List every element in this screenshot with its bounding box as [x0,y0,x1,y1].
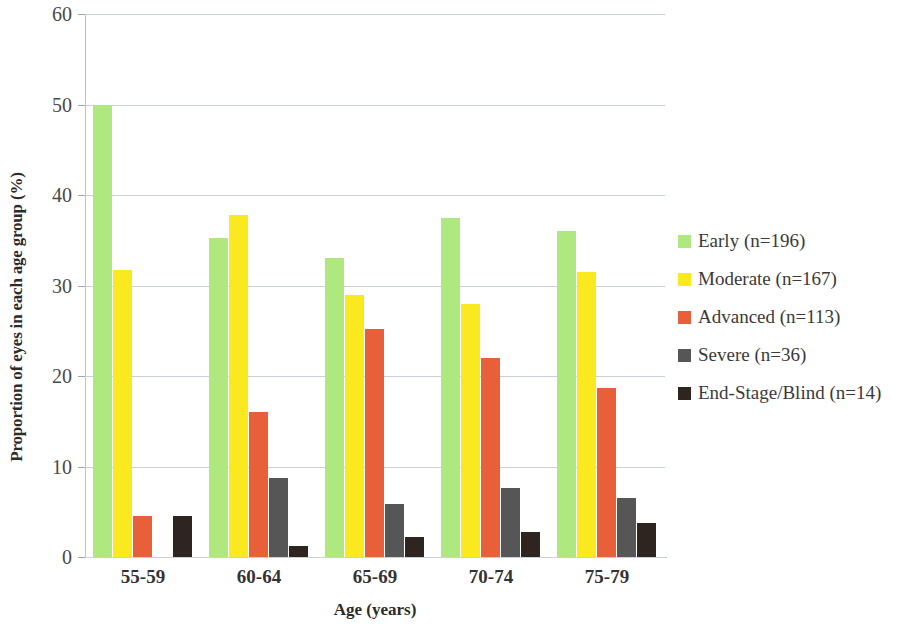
bar-group [325,14,425,557]
legend-item: End-Stage/Blind (n=14) [678,374,924,412]
bar [93,105,112,558]
bar [521,532,540,557]
legend-item: Moderate (n=167) [678,260,924,298]
bar-group [441,14,541,557]
gridline [85,557,665,558]
legend-color-swatch [678,387,691,400]
bar [113,270,132,557]
y-axis-tick-mark [78,376,85,377]
bar [345,295,364,557]
legend-color-swatch [678,273,691,286]
legend-item-label: Advanced (n=113) [698,306,840,328]
x-axis-tick-label: 55-59 [83,566,203,588]
legend-item: Severe (n=36) [678,336,924,374]
bar-group [557,14,657,557]
bar [289,546,308,557]
bar [269,478,288,557]
y-axis-tick-label: 20 [26,365,72,388]
legend: Early (n=196)Moderate (n=167)Advanced (n… [678,222,924,412]
bar [249,412,268,557]
bar [325,258,344,557]
bar-chart-figure: Proportion of eyes in each age group (%)… [0,0,924,634]
legend-item-label: End-Stage/Blind (n=14) [698,382,881,404]
bar [481,358,500,557]
legend-color-swatch [678,349,691,362]
bar-group [93,14,193,557]
x-axis-title: Age (years) [85,600,665,620]
x-axis-tick-label: 60-64 [199,566,319,588]
x-axis-tick-label: 75-79 [547,566,667,588]
bar [229,215,248,557]
legend-color-swatch [678,235,691,248]
bar-group [209,14,309,557]
bar [557,231,576,557]
y-axis-tick-labels: 0102030405060 [24,0,72,634]
y-axis-tick-label: 0 [26,546,72,569]
legend-item-label: Moderate (n=167) [698,268,837,290]
legend-item-label: Early (n=196) [698,230,805,252]
y-axis-tick-mark [78,467,85,468]
bar [577,272,596,557]
legend-item: Early (n=196) [678,222,924,260]
legend-item-label: Severe (n=36) [698,344,806,366]
y-axis-tick-label: 40 [26,184,72,207]
y-axis-tick-label: 50 [26,93,72,116]
y-axis-tick-label: 10 [26,455,72,478]
y-axis-tick-mark [78,195,85,196]
bar [173,516,192,557]
bar [365,329,384,557]
bar [597,388,616,557]
bar [461,304,480,557]
bar [209,238,228,557]
x-axis-tick-label: 65-69 [315,566,435,588]
y-axis-tick-mark [78,286,85,287]
plot-area [85,14,665,557]
bar [441,218,460,557]
bar [385,504,404,557]
bar [133,516,152,557]
y-axis-tick-label: 30 [26,274,72,297]
bar [617,498,636,557]
x-axis-tick-label: 70-74 [431,566,551,588]
y-axis-tick-mark [78,557,85,558]
bar [637,523,656,557]
bar [405,537,424,557]
legend-color-swatch [678,311,691,324]
y-axis-tick-mark [78,105,85,106]
y-axis-tick-mark [78,14,85,15]
bar [501,488,520,557]
legend-item: Advanced (n=113) [678,298,924,336]
y-axis-tick-label: 60 [26,3,72,26]
